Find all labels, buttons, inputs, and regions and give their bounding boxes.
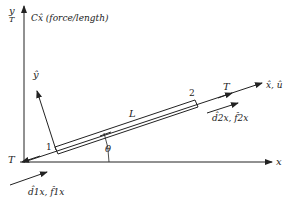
local-y-axis-label: ŷ <box>32 69 39 80</box>
tension-left-arrow <box>22 156 40 162</box>
tension-right-arrow <box>218 93 232 98</box>
tension-right-label: T <box>223 81 231 92</box>
tension-left-label: T <box>8 154 16 165</box>
y-axis-force-label: Cx̂ (force/length) <box>31 13 109 23</box>
node1-dof-arrow <box>10 172 47 185</box>
bar-element <box>55 100 198 154</box>
node1-dof-label: d̂1x, f̂1x <box>28 185 64 197</box>
node2-label: 2 <box>189 88 195 98</box>
x-axis-label: x <box>276 156 282 167</box>
bar-element-diagram: y T Cx̂ (force/length) x x̂, û ŷ L θ 1… <box>0 0 292 207</box>
angle-label: θ <box>105 143 111 154</box>
length-label: L <box>128 108 136 119</box>
y-axis-T-label: T <box>9 15 15 24</box>
node2-dof-arrow <box>207 103 238 113</box>
node2-dof-label: d̂2x, f̂2x <box>212 111 248 123</box>
node1-label: 1 <box>46 142 52 152</box>
local-x-axis-label: x̂, û <box>266 80 283 90</box>
